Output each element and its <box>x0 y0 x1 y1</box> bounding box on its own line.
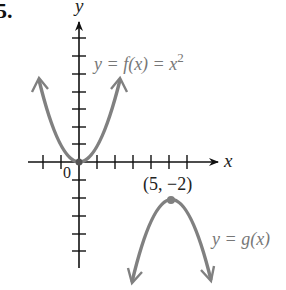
problem-number: 5. <box>0 0 13 23</box>
label-g: y = g(x) <box>210 229 270 250</box>
origin-label: 0 <box>63 164 71 181</box>
label-f: y = f(x) = x2 <box>92 50 184 75</box>
vertex-f <box>76 159 83 166</box>
point-label: (5, −2) <box>143 174 192 195</box>
x-axis-label: x <box>223 150 233 171</box>
vertex-g <box>167 196 175 204</box>
graph: 5. y x 0 y = f(x) = <box>0 0 286 290</box>
parabola-g <box>132 199 211 282</box>
y-axis-label: y <box>73 0 84 16</box>
